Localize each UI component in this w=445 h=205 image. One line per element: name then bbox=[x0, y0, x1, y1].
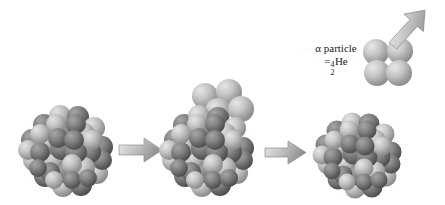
atomic-number: 2 bbox=[330, 69, 334, 77]
he-isotope-numbers: 42 bbox=[330, 61, 334, 77]
alpha-particle-label-line2: =42He bbox=[300, 55, 372, 77]
alpha-particle-label-line1: α particle bbox=[300, 42, 372, 55]
parent-nucleus bbox=[14, 100, 118, 200]
nucleus-with-budding-alpha bbox=[157, 78, 267, 200]
daughter-nucleus bbox=[310, 108, 406, 202]
emission-arrow bbox=[384, 2, 434, 54]
alpha-particle-label: α particle =42He bbox=[300, 42, 372, 76]
element-symbol: He bbox=[335, 55, 348, 67]
process-arrow-2 bbox=[264, 139, 308, 166]
alpha-decay-figure: α particle =42He bbox=[0, 0, 445, 205]
